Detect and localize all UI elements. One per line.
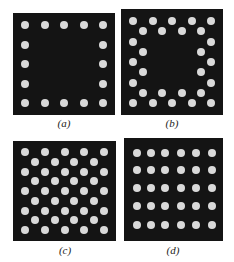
dot [41, 207, 49, 215]
dot [133, 149, 141, 157]
dot [207, 99, 215, 107]
dot [161, 149, 169, 157]
dot [188, 17, 196, 25]
dot [61, 168, 69, 176]
dot [80, 187, 88, 195]
dot [161, 184, 169, 192]
dot [21, 99, 29, 107]
dot [41, 226, 49, 234]
caption-d: (d) [153, 244, 193, 256]
dot [158, 27, 166, 35]
dot [41, 21, 49, 29]
dot [70, 216, 78, 224]
dot [51, 216, 59, 224]
dot [51, 177, 59, 185]
dot [51, 158, 59, 166]
dot [139, 48, 147, 56]
caption-c: (c) [45, 244, 85, 256]
dot [61, 187, 69, 195]
dot [21, 168, 29, 176]
dot [133, 166, 141, 174]
dot [147, 221, 155, 229]
dot [147, 184, 155, 192]
dot [207, 58, 215, 66]
dot [31, 158, 39, 166]
dot [21, 21, 29, 29]
dot [207, 17, 215, 25]
dot [21, 80, 29, 88]
dot [99, 60, 107, 68]
dot [70, 177, 78, 185]
dot [100, 168, 108, 176]
dot [90, 197, 98, 205]
dot [21, 148, 29, 156]
dot [161, 166, 169, 174]
dot [168, 17, 176, 25]
dot [178, 27, 186, 35]
panel-c-staggered-grid [13, 141, 116, 241]
dot [100, 226, 108, 234]
dot [100, 187, 108, 195]
dot [21, 187, 29, 195]
dot [208, 202, 216, 210]
dot [147, 166, 155, 174]
dot [21, 60, 29, 68]
dot [188, 99, 196, 107]
dot [80, 207, 88, 215]
dot [80, 168, 88, 176]
panel-d-rectangular-grid [124, 138, 223, 241]
dot [31, 216, 39, 224]
dot [192, 149, 200, 157]
dot [147, 202, 155, 210]
dot [177, 184, 185, 192]
dot [129, 79, 137, 87]
dot [80, 21, 88, 29]
dot [158, 89, 166, 97]
dot [99, 80, 107, 88]
dot [99, 99, 107, 107]
dot [51, 197, 59, 205]
dot [21, 207, 29, 215]
panel-b-double-ring [121, 9, 223, 115]
dot [80, 148, 88, 156]
dot [192, 166, 200, 174]
dot [61, 226, 69, 234]
dot [41, 187, 49, 195]
dot [31, 177, 39, 185]
dot [90, 177, 98, 185]
dot [99, 41, 107, 49]
dot [133, 221, 141, 229]
dot [139, 68, 147, 76]
dot [129, 38, 137, 46]
dot [208, 184, 216, 192]
dot [177, 149, 185, 157]
dot [60, 21, 68, 29]
dot [129, 99, 137, 107]
dot [149, 99, 157, 107]
dot [70, 158, 78, 166]
dot [177, 166, 185, 174]
dot [178, 89, 186, 97]
dot [90, 216, 98, 224]
dot [197, 68, 205, 76]
dot [197, 48, 205, 56]
dot [208, 221, 216, 229]
dot [139, 27, 147, 35]
dot [133, 202, 141, 210]
panel-a-square-perimeter [13, 13, 115, 115]
dot [192, 202, 200, 210]
dot [139, 89, 147, 97]
caption-a: (a) [44, 117, 84, 129]
dot [129, 58, 137, 66]
dot [133, 184, 141, 192]
dot [177, 202, 185, 210]
dot [161, 202, 169, 210]
dot [168, 99, 176, 107]
dot [41, 168, 49, 176]
dot [21, 226, 29, 234]
dot [61, 148, 69, 156]
dot [197, 27, 205, 35]
dot [70, 197, 78, 205]
dot [100, 207, 108, 215]
dot [192, 184, 200, 192]
